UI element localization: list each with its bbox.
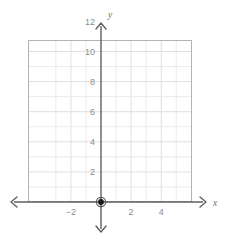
x-tick-label: 2 (129, 207, 134, 217)
y-tick-label: 8 (90, 77, 95, 87)
y-tick-label: 4 (90, 137, 95, 147)
y-tick-label: 2 (90, 167, 95, 177)
data-point-marker (98, 199, 104, 205)
graph-canvas: −22424681012xy (0, 0, 225, 240)
plot-background (28, 40, 192, 202)
x-tick-label: −2 (66, 207, 76, 217)
y-tick-label: 10 (85, 47, 95, 57)
y-axis-name-label: y (107, 10, 113, 20)
y-tick-label: 6 (90, 107, 95, 117)
y-tick-label: 12 (85, 17, 95, 27)
coordinate-plane-graph: −22424681012xy (0, 0, 225, 240)
x-axis-name-label: x (212, 198, 218, 208)
x-tick-label: 4 (159, 207, 164, 217)
